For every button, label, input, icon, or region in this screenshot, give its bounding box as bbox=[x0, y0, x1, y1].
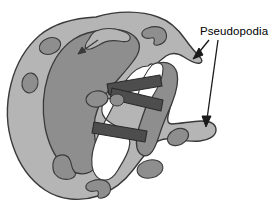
pseudopodia-label: Pseudopodia bbox=[200, 25, 269, 37]
lower-arrow-shaft bbox=[207, 40, 218, 119]
amoeba-diagram-canvas: Pseudopodia bbox=[0, 0, 278, 218]
amoeba-diagram-figure: Pseudopodia bbox=[0, 0, 278, 218]
vacuole-9 bbox=[110, 94, 124, 106]
lower-leader-arrow bbox=[202, 40, 218, 127]
upper-leader-arrow bbox=[193, 40, 209, 59]
